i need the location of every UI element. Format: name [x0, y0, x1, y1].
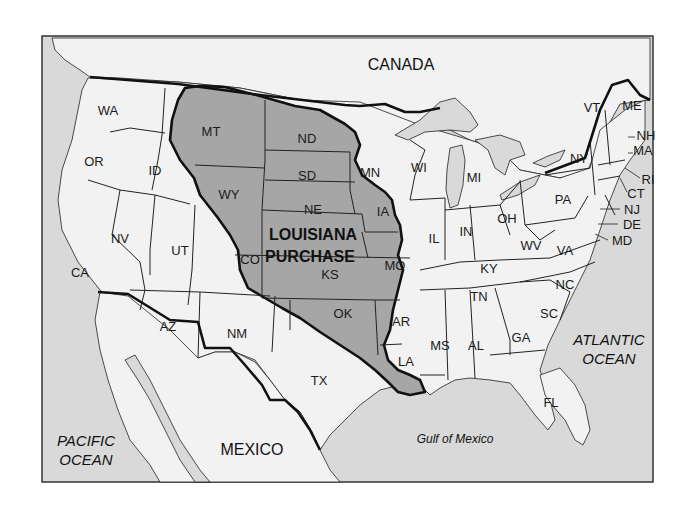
- louisiana-label: LOUISIANA: [269, 226, 357, 243]
- gulf-of-mexico-label: Gulf of Mexico: [417, 432, 494, 446]
- state-label-il: IL: [429, 231, 440, 246]
- pacific-label-1: PACIFIC: [57, 432, 115, 449]
- state-label-mn: MN: [360, 165, 380, 180]
- state-label-tn: TN: [470, 289, 487, 304]
- state-label-la: LA: [398, 354, 414, 369]
- state-label-de: DE: [623, 217, 641, 232]
- louisiana-purchase-map: WA OR ID MT ND SD WY NE NV UT CO KS CA A…: [0, 0, 695, 509]
- state-label-wv: WV: [521, 238, 542, 253]
- state-label-mt: MT: [202, 124, 221, 139]
- state-label-sd: SD: [298, 168, 316, 183]
- mexico-label: MEXICO: [220, 441, 283, 458]
- state-label-ut: UT: [171, 243, 188, 258]
- state-label-wa: WA: [98, 103, 119, 118]
- state-label-ne: NE: [304, 202, 322, 217]
- state-label-ri: RI: [642, 172, 655, 187]
- state-label-co: CO: [240, 252, 260, 267]
- state-label-pa: PA: [555, 192, 572, 207]
- state-label-nd: ND: [298, 131, 317, 146]
- state-label-nh: NH: [637, 128, 656, 143]
- state-label-al: AL: [468, 338, 484, 353]
- pacific-label-2: OCEAN: [59, 451, 113, 468]
- state-label-oh: OH: [497, 211, 517, 226]
- atlantic-label-1: ATLANTIC: [572, 331, 645, 348]
- state-label-ks: KS: [321, 267, 339, 282]
- state-label-nc: NC: [556, 277, 575, 292]
- state-label-ct: CT: [627, 186, 644, 201]
- state-label-ga: GA: [512, 330, 531, 345]
- state-label-id: ID: [149, 163, 162, 178]
- state-label-or: OR: [84, 154, 104, 169]
- state-label-vt: VT: [584, 100, 601, 115]
- atlantic-label-2: OCEAN: [582, 350, 636, 367]
- state-label-me: ME: [622, 98, 642, 113]
- state-label-in: IN: [460, 224, 473, 239]
- state-label-ky: KY: [480, 261, 498, 276]
- state-label-nv: NV: [111, 231, 129, 246]
- state-label-tx: TX: [311, 373, 328, 388]
- state-label-az: AZ: [160, 319, 177, 334]
- purchase-label: PURCHASE: [265, 248, 355, 265]
- state-label-wi: WI: [411, 160, 427, 175]
- state-label-ca: CA: [71, 265, 89, 280]
- state-label-ms: MS: [430, 338, 450, 353]
- state-label-sc: SC: [540, 306, 558, 321]
- canada-label: CANADA: [368, 56, 435, 73]
- state-label-ia: IA: [377, 204, 390, 219]
- state-label-ma: MA: [633, 143, 653, 158]
- state-label-ok: OK: [334, 306, 353, 321]
- state-label-mo: MO: [385, 258, 406, 273]
- state-label-mi: MI: [467, 170, 481, 185]
- state-label-ny: NY: [570, 151, 588, 166]
- state-label-nj: NJ: [624, 202, 640, 217]
- state-label-nm: NM: [227, 326, 247, 341]
- state-label-va: VA: [557, 243, 574, 258]
- state-label-ar: AR: [392, 314, 410, 329]
- state-label-wy: WY: [219, 187, 240, 202]
- state-label-fl: FL: [543, 395, 558, 410]
- state-label-md: MD: [612, 233, 632, 248]
